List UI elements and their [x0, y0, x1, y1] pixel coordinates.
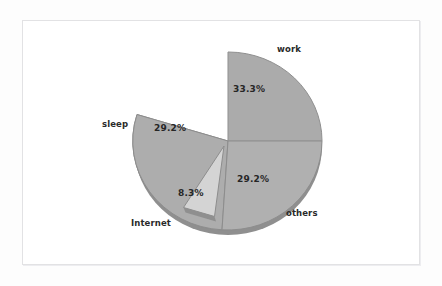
- pie-chart-screenshot: work sleep others Internet 33.3% 29.2% 2…: [0, 0, 442, 286]
- pie-value-sleep: 29.2%: [154, 123, 186, 133]
- pie-value-internet: 8.3%: [178, 188, 204, 198]
- pie-value-others: 29.2%: [237, 174, 269, 184]
- pie-top-highlight: [228, 52, 322, 141]
- pie-label-others: others: [286, 208, 318, 218]
- pie-label-internet: Internet: [131, 218, 171, 228]
- pie-chart-area: work sleep others Internet 33.3% 29.2% 2…: [0, 0, 442, 286]
- pie-label-sleep: sleep: [102, 119, 128, 129]
- pie-chart-svg: [0, 0, 442, 286]
- pie-label-work: work: [277, 44, 301, 54]
- pie-value-work: 33.3%: [233, 84, 265, 94]
